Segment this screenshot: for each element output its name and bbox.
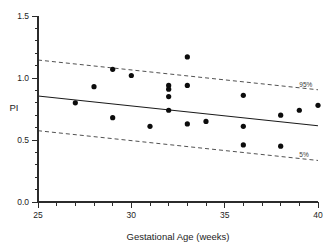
data-point [185,54,190,59]
x-tick-label: 25 [33,210,43,220]
band-annotations: 95%5% [299,81,312,159]
data-point [203,119,208,124]
x-tick-label: 40 [313,210,323,220]
data-point [241,93,246,98]
data-point [185,121,190,126]
data-point [110,67,115,72]
chart-container: 0.00.51.01.5 25303540 95%5% Gestational … [0,0,327,244]
y-tick-label: 1.5 [17,11,29,21]
regression-line [38,96,318,126]
data-point [297,108,302,113]
x-axis-title: Gestational Age (weeks) [127,231,230,242]
y-tick-label: 1.0 [17,73,29,83]
scatter-plot: 0.00.51.01.5 25303540 95%5% Gestational … [0,0,327,244]
data-point [278,144,283,149]
data-point [166,87,171,92]
y-axis: 0.00.51.01.5 [17,11,38,207]
x-tick-label: 30 [127,210,137,220]
data-point [73,100,78,105]
y-axis-title: PI [10,102,19,113]
data-point [147,124,152,129]
x-axis: 25303540 [33,202,323,220]
data-point [278,113,283,118]
data-point [129,73,134,78]
data-point [110,115,115,120]
data-point [315,103,320,108]
data-point [91,84,96,89]
data-point [166,108,171,113]
data-point [241,124,246,129]
data-points-group [73,54,321,148]
regression-line-group [38,96,318,126]
data-point [166,94,171,99]
y-tick-label: 0.5 [17,135,29,145]
y-tick-label: 0.0 [17,197,29,207]
plot-bands [38,60,318,160]
band-line-5pct [38,131,318,161]
data-point [185,83,190,88]
data-point [241,142,246,147]
band-line-95pct [38,60,318,90]
band-percent-label: 95% [299,81,312,88]
band-percent-label: 5% [299,151,309,158]
x-tick-label: 35 [220,210,230,220]
